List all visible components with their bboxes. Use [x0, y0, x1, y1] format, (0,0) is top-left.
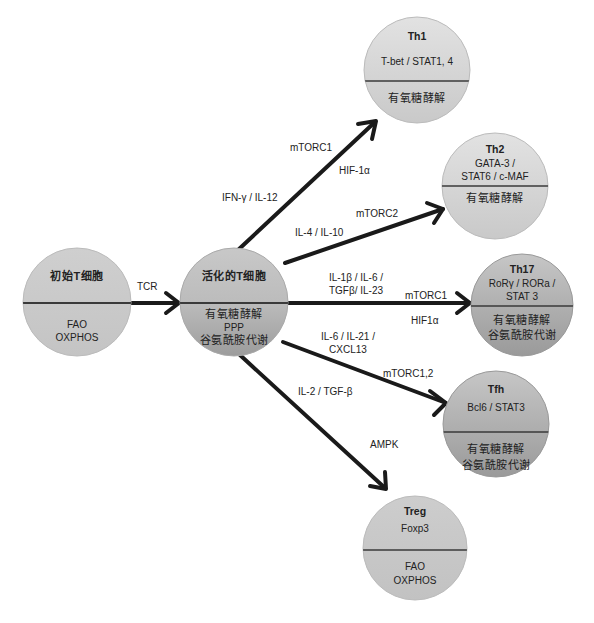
th17-title: Th17 — [472, 263, 572, 276]
edge-th1-factor: HIF-1α — [339, 164, 370, 178]
activated-title: 活化的T细胞 — [184, 269, 284, 283]
edge-tfh-signal: mTORC1,2 — [383, 367, 433, 381]
edge-treg-signal: AMPK — [370, 438, 398, 452]
th1-metabolism-1: 有氧糖酵解 — [367, 91, 467, 105]
naive-metabolism-1: FAO — [27, 318, 127, 331]
th2-metabolism-1: 有氧糖酵解 — [445, 191, 545, 205]
th17-factor-1: RoRγ / RORa / — [472, 277, 572, 290]
treg-metabolism-1: FAO — [365, 560, 465, 573]
edge-th1-signal: mTORC1 — [290, 141, 332, 155]
th17-metabolism-2: 谷氨酰胺代谢 — [472, 328, 572, 342]
th17-metabolism-1: 有氧糖酵解 — [472, 313, 572, 327]
edge-th2-cytokines: IL-4 / IL-10 — [295, 226, 343, 240]
edge-tfh-cytokines-1: IL-6 / IL-21 / — [298, 330, 398, 344]
edge-treg-cytokines: IL-2 / TGF-β — [298, 385, 352, 399]
activated-metabolism-1: 有氧糖酵解 — [184, 307, 284, 321]
edge-label-tcr: TCR — [137, 280, 158, 294]
naive-title: 初始T细胞 — [27, 269, 127, 283]
edge-th17-cytokines-2: TGFβ/ IL-23 — [306, 284, 406, 298]
treg-title: Treg — [365, 505, 465, 518]
tfh-metabolism-2: 谷氨酰胺代谢 — [446, 458, 546, 472]
edge-th17-signal: mTORC1 — [405, 289, 447, 303]
treg-metabolism-2: OXPHOS — [365, 574, 465, 587]
edge-th2-signal: mTORC2 — [356, 207, 398, 221]
th1-title: Th1 — [367, 30, 467, 43]
th2-factor-2: STAT6 / c-MAF — [445, 170, 545, 183]
edge-tfh-cytokines-2: CXCL13 — [298, 343, 398, 357]
tfh-factor-1: Bcl6 / STAT3 — [446, 401, 546, 414]
naive-metabolism-2: OXPHOS — [27, 331, 127, 344]
treg-factor-1: Foxp3 — [365, 522, 465, 535]
edge-th17-cytokines-1: IL-1β / IL-6 / — [306, 271, 406, 285]
th17-factor-2: STAT 3 — [472, 290, 572, 303]
edge-th1-cytokines: IFN-γ / IL-12 — [222, 191, 278, 205]
arrow-tcr — [131, 293, 179, 313]
diagram-canvas — [0, 0, 594, 623]
th2-title: Th2 — [445, 143, 545, 156]
activated-metabolism-3: 谷氨酰胺代谢 — [184, 333, 284, 347]
th1-factor-1: T-bet / STAT1, 4 — [367, 55, 467, 68]
tfh-metabolism-1: 有氧糖酵解 — [446, 442, 546, 456]
arrow-treg — [240, 355, 386, 489]
tfh-title: Tfh — [446, 383, 546, 396]
th2-factor-1: GATA-3 / — [445, 157, 545, 170]
edge-th17-factor: HIF1α — [411, 314, 438, 328]
